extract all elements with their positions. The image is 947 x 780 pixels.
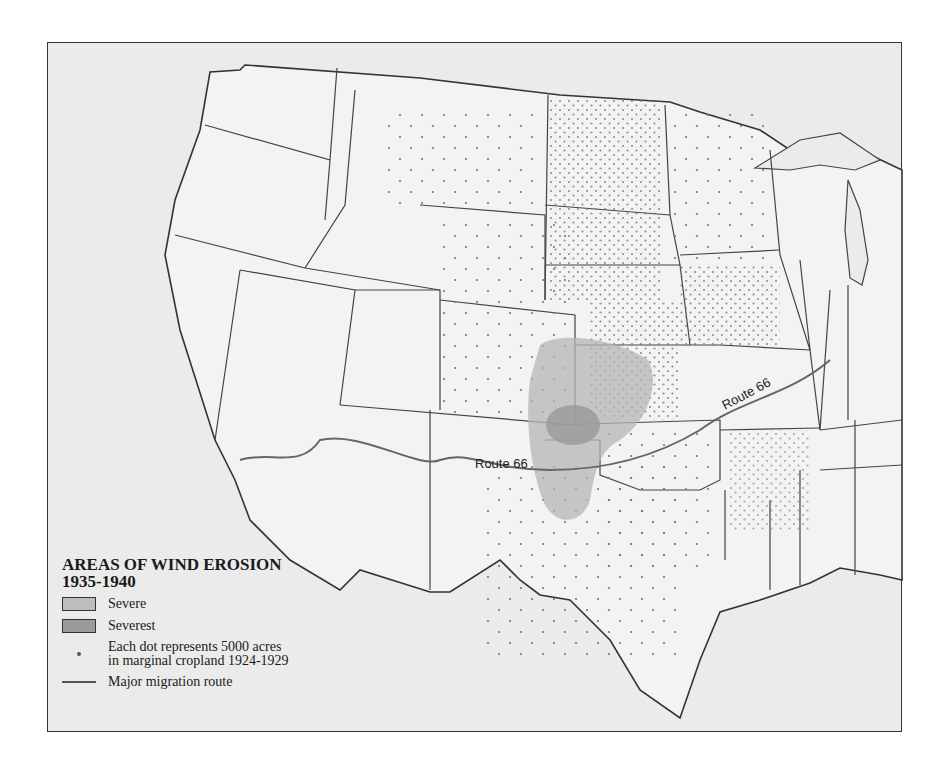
legend-years: 1935-1940 <box>62 573 289 590</box>
severe-swatch <box>62 597 96 611</box>
route-label: Major migration route <box>108 674 232 690</box>
legend-title: AREAS OF WIND EROSION <box>62 556 289 573</box>
legend-item-route: Major migration route <box>62 674 289 690</box>
legend-item-severe: Severe <box>62 596 289 612</box>
dot-label-line2: in marginal cropland 1924-1929 <box>108 654 289 668</box>
route-line-icon <box>62 681 96 683</box>
legend-item-severest: Severest <box>62 618 289 634</box>
legend-item-dot: Each dot represents 5000 acres in margin… <box>62 640 289 668</box>
dot-label-line1: Each dot represents 5000 acres <box>108 640 289 654</box>
route-66-label-central: Route 66 <box>475 456 528 471</box>
severest-label: Severest <box>108 618 155 634</box>
legend: AREAS OF WIND EROSION 1935-1940 Severe S… <box>62 556 289 690</box>
dot-icon <box>77 652 81 656</box>
severest-swatch <box>62 619 96 633</box>
severest-erosion-area <box>546 405 600 445</box>
severe-label: Severe <box>108 596 146 612</box>
